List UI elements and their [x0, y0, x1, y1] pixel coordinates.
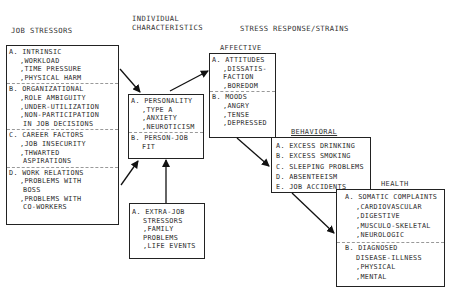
flow-arrows — [0, 0, 466, 299]
arrow-individual-to-affective — [170, 71, 208, 91]
arrow-affective-to-behavioral — [237, 138, 269, 166]
arrow-stressors-to-fit — [121, 161, 138, 185]
arrow-behavioral-to-health — [292, 193, 334, 233]
arrow-stressors-to-individual — [120, 69, 140, 92]
